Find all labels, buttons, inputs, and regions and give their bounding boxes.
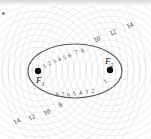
focus-label-f2-sub: 2 [111, 62, 114, 68]
focus-label-f1: F1 [36, 76, 45, 87]
focus-label-f2: F2 [105, 57, 114, 68]
ellipse-figure: F1 F2 1 2 3 4 5 6 7 8 10 12 14 8 7 6 5 4… [0, 0, 151, 139]
circles-about-f1 [0, 0, 146, 139]
focus-label-f1-sub: 1 [42, 81, 45, 87]
focus-point-f1 [35, 68, 41, 74]
